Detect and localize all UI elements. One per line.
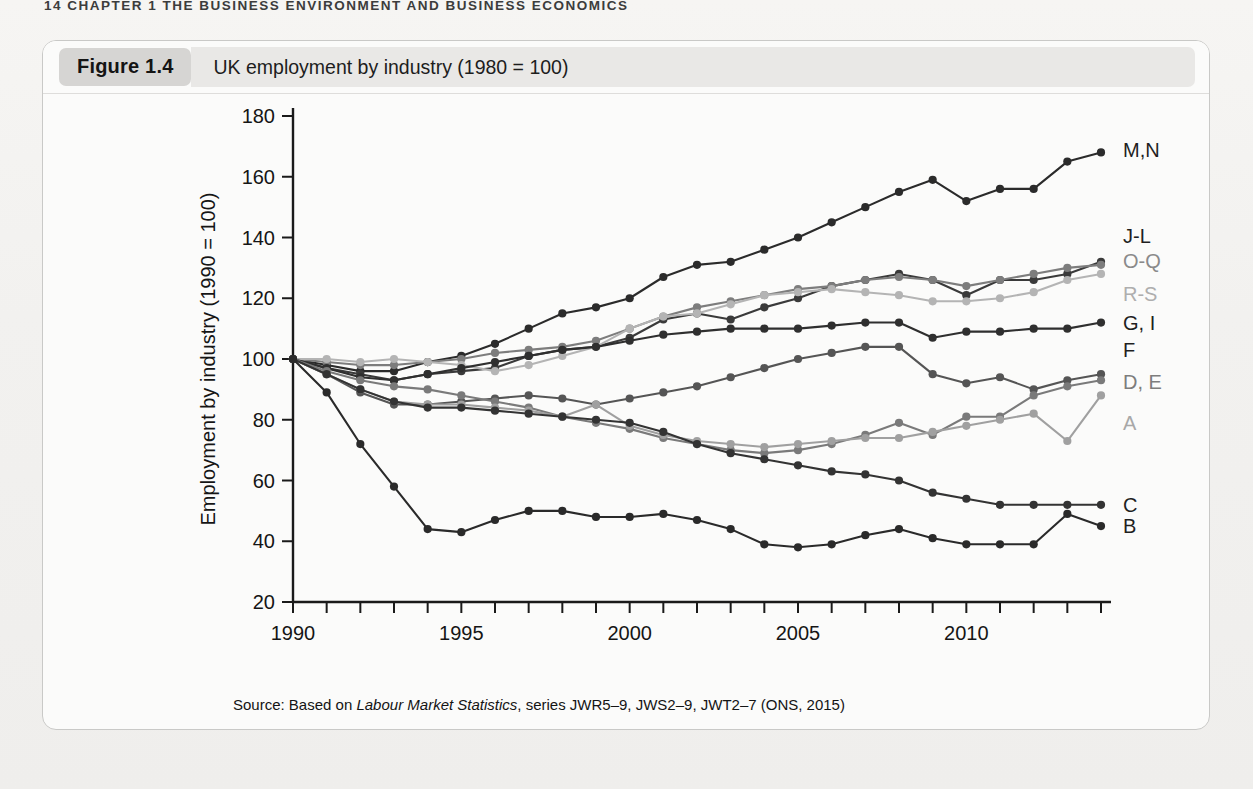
data-point [794, 325, 802, 333]
x-tick-label: 2010 [944, 622, 989, 644]
data-point [592, 303, 600, 311]
source-prefix: Source: Based on [233, 696, 356, 713]
source-italic-title: Labour Market Statistics [356, 696, 517, 713]
data-point [895, 343, 903, 351]
data-point [861, 531, 869, 539]
data-point [1097, 148, 1105, 156]
data-point [727, 325, 735, 333]
data-point [1063, 325, 1071, 333]
series-end-label: A [1123, 412, 1137, 434]
series-line [293, 359, 1101, 447]
data-point [558, 507, 566, 515]
data-point [659, 273, 667, 281]
data-point [1097, 391, 1105, 399]
data-point [895, 318, 903, 326]
x-tick-label: 1990 [271, 622, 316, 644]
data-point [828, 349, 836, 357]
data-point [861, 343, 869, 351]
data-point [659, 510, 667, 518]
data-point [794, 355, 802, 363]
data-point [828, 285, 836, 293]
data-point [760, 246, 768, 254]
data-point [592, 416, 600, 424]
data-point [693, 261, 701, 269]
data-point [558, 394, 566, 402]
data-point [727, 373, 735, 381]
data-point [457, 391, 465, 399]
series-mn [289, 148, 1105, 375]
series-rs [289, 270, 1105, 375]
data-point [794, 543, 802, 551]
data-point [491, 516, 499, 524]
figure-caption-text: UK employment by industry (1980 = 100) [191, 47, 1195, 87]
data-point [457, 404, 465, 412]
y-tick-label: 120 [242, 287, 275, 309]
data-point [727, 440, 735, 448]
data-point [626, 394, 634, 402]
data-point [491, 358, 499, 366]
data-point [996, 373, 1004, 381]
data-point [962, 422, 970, 430]
y-tick-label: 40 [253, 530, 275, 552]
data-point [626, 294, 634, 302]
data-point [828, 540, 836, 548]
plot-area: 2040608010012014016018019901995200020052… [43, 94, 1209, 694]
data-point [794, 288, 802, 296]
series-end-label: O-Q [1123, 250, 1161, 272]
series-end-label: J-L [1123, 225, 1151, 247]
data-point [525, 391, 533, 399]
data-point [962, 540, 970, 548]
data-point [491, 349, 499, 357]
data-point [727, 300, 735, 308]
data-point [794, 233, 802, 241]
series-a [289, 355, 1105, 451]
data-point [1063, 437, 1071, 445]
data-point [727, 315, 735, 323]
data-point [659, 388, 667, 396]
running-head: 14 CHAPTER 1 THE BUSINESS ENVIRONMENT AN… [44, 0, 629, 13]
data-point [727, 258, 735, 266]
data-point [424, 370, 432, 378]
data-point [929, 534, 937, 542]
data-point [457, 364, 465, 372]
data-point [895, 525, 903, 533]
data-point [1097, 261, 1105, 269]
data-point [323, 388, 331, 396]
data-point [558, 346, 566, 354]
data-point [760, 540, 768, 548]
data-point [1063, 264, 1071, 272]
data-point [828, 467, 836, 475]
x-tick-label: 1995 [439, 622, 484, 644]
data-point [1063, 382, 1071, 390]
series-f [289, 343, 1105, 409]
data-point [861, 318, 869, 326]
data-point [356, 376, 364, 384]
data-point [558, 413, 566, 421]
source-suffix: , series JWR5–9, JWS2–9, JWT2–7 (ONS, 20… [517, 696, 845, 713]
data-point [929, 176, 937, 184]
data-point [659, 428, 667, 436]
data-point [962, 495, 970, 503]
figure-source: Source: Based on Labour Market Statistic… [43, 696, 1209, 713]
data-point [424, 525, 432, 533]
data-point [390, 482, 398, 490]
x-tick-label: 2000 [607, 622, 652, 644]
data-point [996, 328, 1004, 336]
series-end-label: M,N [1123, 139, 1160, 161]
data-point [1030, 410, 1038, 418]
data-point [1030, 185, 1038, 193]
data-point [323, 355, 331, 363]
data-point [1030, 540, 1038, 548]
data-point [558, 309, 566, 317]
data-point [693, 382, 701, 390]
data-point [962, 297, 970, 305]
data-point [895, 419, 903, 427]
data-point [390, 355, 398, 363]
data-point [1063, 510, 1071, 518]
series-end-label: C [1123, 494, 1137, 516]
series-end-label: F [1123, 339, 1135, 361]
data-point [525, 361, 533, 369]
data-point [929, 428, 937, 436]
data-point [626, 419, 634, 427]
data-point [760, 455, 768, 463]
